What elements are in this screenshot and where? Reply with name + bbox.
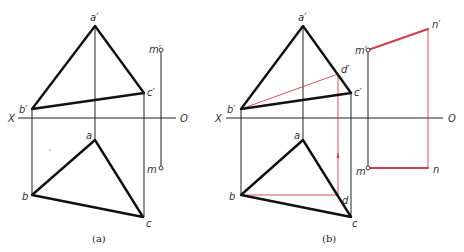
- axis-o-label: O: [180, 113, 188, 124]
- caption-a: (a): [92, 233, 106, 244]
- figure-b: X O a′ b′ c′ d′ m′ n′ a b d c m n: [214, 12, 456, 244]
- line-m-prime-n-prime: [368, 29, 428, 50]
- label-n-prime: n′: [432, 19, 441, 30]
- label-b-prime: b′: [19, 104, 28, 115]
- label-m: m: [147, 164, 157, 175]
- dot-mark: [49, 149, 50, 150]
- label-b: b: [22, 191, 28, 202]
- axis-x-label: X: [7, 113, 16, 124]
- triangle-top-view: [241, 140, 351, 217]
- label-a-prime: a′: [298, 12, 307, 23]
- label-c: c: [352, 218, 358, 229]
- label-a-prime: a′: [90, 12, 99, 23]
- label-d-prime: d′: [341, 64, 350, 75]
- caption-b: (b): [322, 233, 336, 244]
- label-m-prime: m′: [355, 45, 368, 56]
- label-m: m: [356, 166, 366, 177]
- label-n: n: [433, 164, 439, 175]
- label-d: d: [342, 195, 349, 206]
- label-c: c: [146, 218, 152, 229]
- triangle-front-view: [241, 26, 351, 109]
- label-a: a: [86, 130, 92, 141]
- point-m: [366, 166, 370, 170]
- label-c-prime: c′: [147, 87, 155, 98]
- point-m: [159, 166, 163, 170]
- label-m-prime: m′: [149, 44, 162, 55]
- projection-diagram: X O a′ b′ c′ m′ a b c m (a) X O: [0, 0, 464, 252]
- label-b: b: [229, 191, 235, 202]
- figure-a: X O a′ b′ c′ m′ a b c m (a): [7, 12, 188, 244]
- label-a: a: [294, 130, 300, 141]
- label-b-prime: b′: [227, 104, 236, 115]
- axis-o-label: O: [448, 113, 456, 124]
- triangle-front-view: [32, 26, 144, 109]
- axis-x-label: X: [214, 113, 223, 124]
- label-c-prime: c′: [354, 87, 362, 98]
- triangle-top-view: [32, 140, 143, 217]
- arrow-up-icon: [337, 152, 340, 158]
